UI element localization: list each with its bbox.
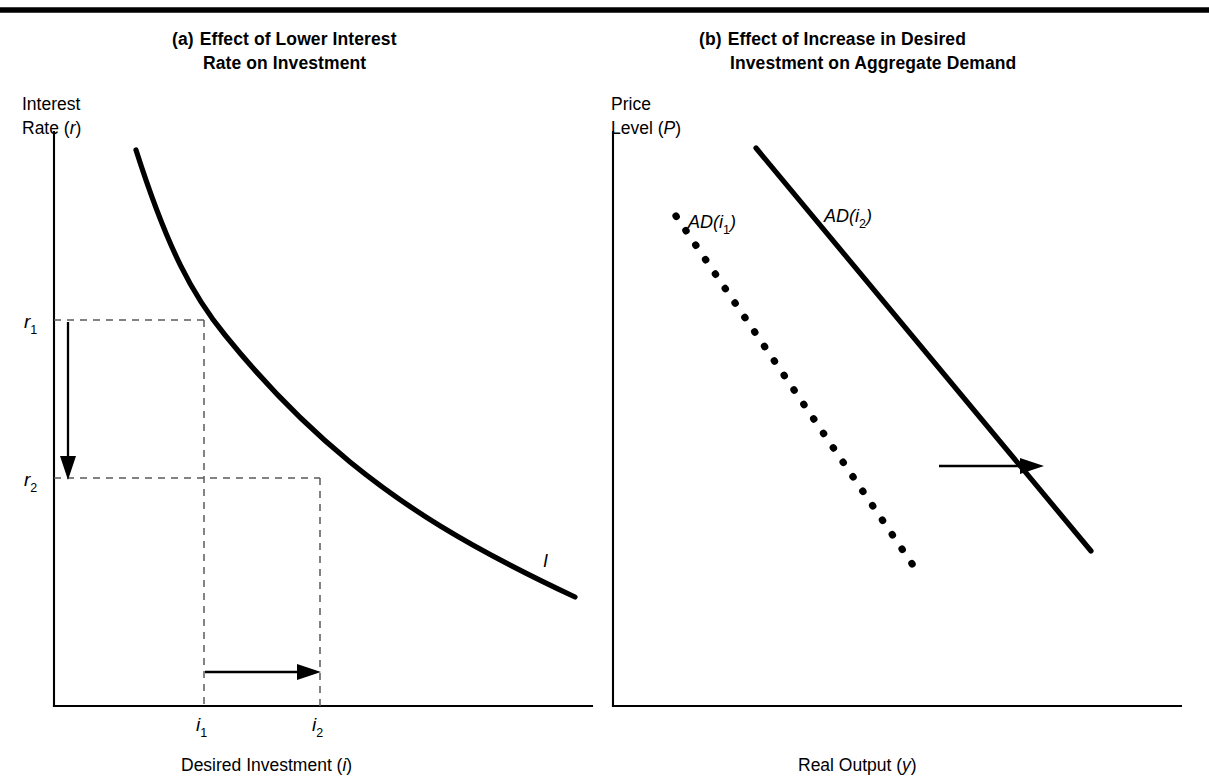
panel-a-y-axis-label-line1: Interest <box>22 94 80 114</box>
panel-b-x-axis-label-close: ) <box>911 755 917 775</box>
panel-b-title-line2: Investment on Aggregate Demand <box>730 53 1016 73</box>
economics-figure: (a)Effect of Lower Interest Rate on Inve… <box>0 0 1209 784</box>
panel-b-y-axis-label-line2: Level (P) <box>611 118 681 138</box>
panel-a-marker: (a) <box>172 29 194 49</box>
panel-b-marker: (b) <box>699 29 722 49</box>
panel-a: (a)Effect of Lower Interest Rate on Inve… <box>22 29 592 775</box>
panel-a-x-axis-label: Desired Investment (i) <box>181 755 352 775</box>
panel-a-investment-rise-arrow <box>205 664 321 680</box>
panel-a-y-tick-r2: r2 <box>24 469 37 495</box>
panel-a-y-axis-label-line2: Rate (r) <box>22 118 81 138</box>
panel-a-x-tick-i1: i1 <box>196 714 207 740</box>
panel-a-x-axis-label-text: Desired Investment ( <box>181 755 343 775</box>
panel-a-y-axis-label-close: ) <box>75 118 81 138</box>
panel-a-interest-rate-fall-arrow <box>60 322 76 480</box>
panel-a-title-text-1: Effect of Lower Interest <box>200 29 397 49</box>
panel-b-curve-label-ad2: AD(i2) <box>823 206 872 231</box>
panel-b-title-line1: (b)Effect of Increase in Desired <box>699 29 966 49</box>
panel-b-y-axis-label-line1: Price <box>611 94 651 114</box>
panel-b-ad-curve-2 <box>756 148 1091 551</box>
panel-b: (b)Effect of Increase in Desired Investm… <box>611 29 1181 775</box>
panel-b-title-text-1: Effect of Increase in Desired <box>728 29 966 49</box>
panel-a-x-axis-label-close: ) <box>346 755 352 775</box>
panel-b-ad-curve-1 <box>676 216 921 577</box>
panel-a-y-axis-label-text: Rate ( <box>22 118 70 138</box>
panel-a-investment-demand-curve <box>136 150 575 597</box>
panel-b-y-axis-label-text: Level ( <box>611 118 664 138</box>
figure-canvas: (a)Effect of Lower Interest Rate on Inve… <box>0 0 1209 784</box>
panel-b-curve-label-ad1: AD(i1) <box>687 212 736 237</box>
panel-a-curve-label-I: I <box>543 551 548 571</box>
panel-a-title-line1: (a)Effect of Lower Interest <box>172 29 397 49</box>
panel-b-y-axis-label-close: ) <box>675 118 681 138</box>
panel-a-y-tick-r1: r1 <box>24 311 37 337</box>
panel-a-title-line2: Rate on Investment <box>203 53 366 73</box>
panel-b-y-axis-variable: P <box>664 118 676 138</box>
panel-a-x-tick-i2: i2 <box>312 714 323 740</box>
panel-b-x-axis-label: Real Output (y) <box>798 755 917 775</box>
panel-b-x-axis-label-text: Real Output ( <box>798 755 902 775</box>
